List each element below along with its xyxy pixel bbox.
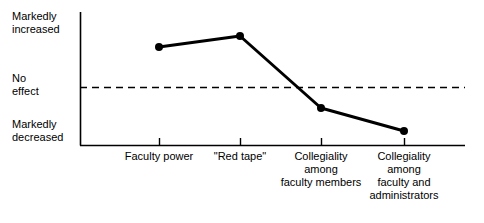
y-axis-label-no-effect: No effect	[12, 72, 76, 97]
data-point-marker	[155, 43, 163, 51]
data-point-marker	[236, 32, 244, 40]
data-point-marker	[400, 127, 408, 135]
y-axis-label-markedly-increased: Markedly increased	[12, 10, 76, 35]
data-series-line	[159, 36, 404, 131]
chart-figure: Markedly increased No effect Markedly de…	[0, 0, 484, 223]
y-axis-label-markedly-decreased: Markedly decreased	[12, 118, 76, 143]
data-point-marker	[317, 104, 325, 112]
x-axis-label-collegiality-faculty-administrators: Collegiality among faculty and administr…	[344, 150, 464, 202]
